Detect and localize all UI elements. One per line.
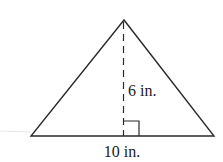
- faint-guide-line: [0, 131, 30, 132]
- height-label: 6 in.: [128, 82, 156, 99]
- base-label: 10 in.: [104, 143, 140, 160]
- right-angle-marker: [124, 121, 140, 136]
- triangle-diagram: 6 in. 10 in.: [0, 0, 223, 162]
- triangle-outline: [31, 20, 214, 136]
